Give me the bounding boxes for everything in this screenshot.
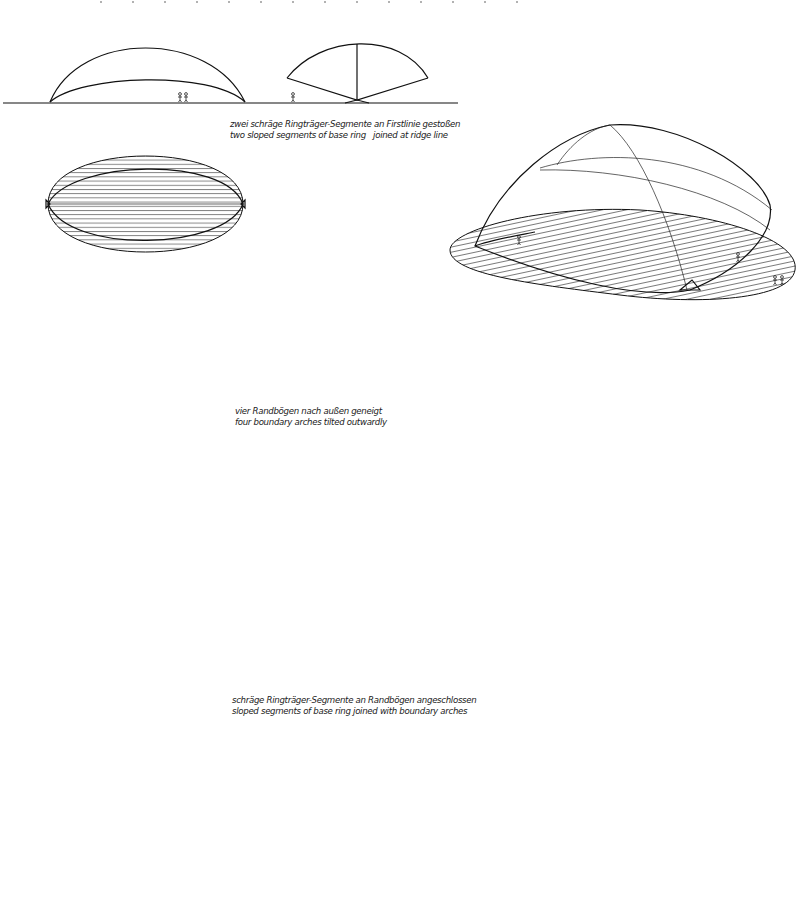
caption-variant-2: vier Randbögen nach außen geneigt four b… [235, 406, 387, 428]
base-ring-hatch-axo [450, 209, 795, 299]
variant-1-plan [46, 156, 245, 252]
base-ring-segment [50, 80, 245, 102]
variant-1-section-cross [287, 44, 428, 103]
variant-1 [3, 2, 795, 300]
caption-variant-2-de: vier Randbögen nach außen geneigt [235, 406, 387, 417]
caption-variant-2-en: four boundary arches tilted outwardly [235, 417, 387, 428]
caption-variant-1-en: two sloped segments of base ring joined … [230, 130, 460, 141]
caption-variant-1: zwei schräge Ringträger-Segmente an Firs… [230, 119, 460, 141]
dome-outline [50, 48, 245, 102]
caption-variant-3-de: schräge Ringträger-Segmente an Randbögen… [232, 695, 476, 706]
caption-variant-3-en: sloped segments of base ring joined with… [232, 706, 476, 717]
variant-1-axonometric [450, 125, 795, 300]
caption-variant-1-de: zwei schräge Ringträger-Segmente an Firs… [230, 119, 460, 130]
caption-variant-3: schräge Ringträger-Segmente an Randbögen… [232, 695, 476, 717]
variant-1-section-long [3, 48, 458, 103]
